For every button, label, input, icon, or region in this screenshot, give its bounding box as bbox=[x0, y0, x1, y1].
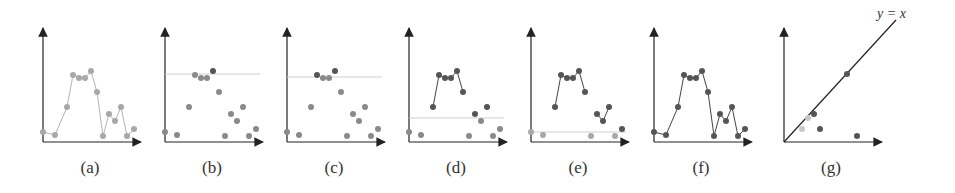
data-point bbox=[558, 72, 564, 78]
data-point bbox=[430, 104, 436, 110]
data-point bbox=[460, 89, 466, 95]
data-point bbox=[362, 104, 368, 110]
data-point bbox=[64, 104, 70, 110]
data-point bbox=[735, 133, 741, 139]
data-point bbox=[418, 132, 424, 138]
data-point bbox=[88, 68, 94, 74]
data-point bbox=[454, 68, 460, 74]
caption-d: (d) bbox=[436, 158, 476, 178]
data-point bbox=[240, 104, 246, 110]
panel-b bbox=[162, 28, 263, 142]
data-point bbox=[699, 68, 705, 74]
data-point bbox=[106, 111, 112, 117]
data-point bbox=[192, 72, 198, 78]
data-point bbox=[228, 111, 234, 117]
caption-f: (f) bbox=[681, 158, 721, 178]
data-point bbox=[582, 89, 588, 95]
data-point bbox=[70, 72, 76, 78]
data-point bbox=[612, 133, 618, 139]
data-point bbox=[112, 118, 118, 124]
persistence-point bbox=[817, 126, 823, 132]
data-point bbox=[204, 75, 210, 81]
data-point bbox=[82, 75, 88, 81]
data-point bbox=[600, 118, 606, 124]
data-point bbox=[338, 89, 344, 95]
segment bbox=[433, 75, 439, 107]
data-point bbox=[442, 75, 448, 81]
data-point bbox=[314, 72, 320, 78]
data-point bbox=[350, 111, 356, 117]
panel-e bbox=[528, 28, 629, 142]
data-point bbox=[497, 126, 503, 132]
data-point bbox=[131, 126, 137, 132]
data-point bbox=[216, 89, 222, 95]
data-point bbox=[326, 75, 332, 81]
persistence-point bbox=[844, 71, 850, 77]
data-point bbox=[540, 132, 546, 138]
panel-a bbox=[40, 28, 141, 142]
data-point bbox=[490, 133, 496, 139]
persistence-point bbox=[811, 111, 817, 117]
data-point bbox=[356, 118, 362, 124]
segment bbox=[579, 71, 585, 92]
data-point bbox=[94, 89, 100, 95]
data-point bbox=[344, 133, 350, 139]
data-point bbox=[681, 72, 687, 78]
data-point bbox=[723, 118, 729, 124]
data-point bbox=[570, 75, 576, 81]
data-point bbox=[594, 111, 600, 117]
caption-e: (e) bbox=[558, 158, 598, 178]
data-point bbox=[375, 126, 381, 132]
data-point bbox=[742, 126, 748, 132]
data-point bbox=[687, 75, 693, 81]
caption-b: (b) bbox=[192, 158, 232, 178]
data-point bbox=[606, 104, 612, 110]
data-point bbox=[100, 133, 106, 139]
data-point bbox=[296, 132, 302, 138]
persistence-point bbox=[854, 133, 860, 139]
caption-a: (a) bbox=[70, 158, 110, 178]
data-point bbox=[332, 68, 338, 74]
signal-line bbox=[43, 71, 134, 136]
data-point bbox=[675, 104, 681, 110]
data-point bbox=[576, 68, 582, 74]
segment bbox=[457, 71, 463, 92]
data-point bbox=[76, 75, 82, 81]
data-point bbox=[198, 75, 204, 81]
data-point bbox=[552, 104, 558, 110]
data-point bbox=[693, 75, 699, 81]
panel-f bbox=[651, 28, 752, 142]
data-point bbox=[663, 132, 669, 138]
caption-c: (c) bbox=[314, 158, 354, 178]
data-point bbox=[711, 133, 717, 139]
data-point bbox=[186, 104, 192, 110]
data-point bbox=[478, 118, 484, 124]
data-point bbox=[52, 132, 58, 138]
data-point bbox=[118, 104, 124, 110]
data-point bbox=[253, 126, 259, 132]
data-point bbox=[619, 126, 625, 132]
segment bbox=[555, 75, 561, 107]
data-point bbox=[651, 129, 657, 135]
caption-g: (g) bbox=[811, 158, 851, 178]
data-point bbox=[406, 129, 412, 135]
data-point bbox=[40, 129, 46, 135]
data-point bbox=[588, 133, 594, 139]
data-point bbox=[222, 133, 228, 139]
data-point bbox=[284, 129, 290, 135]
data-point bbox=[320, 75, 326, 81]
persistence-point bbox=[799, 126, 805, 132]
data-point bbox=[436, 72, 442, 78]
data-point bbox=[234, 118, 240, 124]
panel-g bbox=[784, 20, 896, 142]
data-point bbox=[729, 104, 735, 110]
persistence-point bbox=[805, 115, 811, 121]
panel-c bbox=[284, 28, 385, 142]
data-point bbox=[705, 89, 711, 95]
data-point bbox=[124, 133, 130, 139]
data-point bbox=[717, 111, 723, 117]
panel-d bbox=[406, 28, 507, 142]
data-point bbox=[174, 132, 180, 138]
data-point bbox=[564, 75, 570, 81]
data-point bbox=[162, 129, 168, 135]
